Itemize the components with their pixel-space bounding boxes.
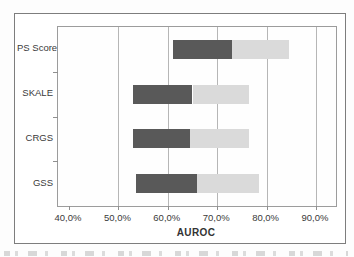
bar-segment-upper-segment [190,129,249,148]
x-tick-label: 40,0% [48,212,88,224]
bar-segment-upper-segment [232,40,289,59]
gridline [118,27,119,206]
x-axis-tick [316,206,317,210]
x-axis-tick [168,206,169,210]
gridline [316,27,317,206]
x-axis-tick [118,206,119,210]
bar-segment-upper-segment [193,85,250,104]
x-tick-label: 50,0% [97,212,137,224]
y-axis-tick [53,161,58,162]
x-tick-label: 80,0% [246,212,286,224]
x-tick-label: 60,0% [147,212,187,224]
plot-area [57,26,337,207]
chart-frame: PS ScoreSKALECRGSGSS 40,0%50,0%60,0%70,0… [14,13,346,244]
bar-segment-lower-segment [136,174,198,193]
x-tick-label: 70,0% [196,212,236,224]
bar-segment-lower-segment [133,129,190,148]
x-tick-label: 90,0% [295,212,335,224]
category-label: CRGS [17,132,53,144]
bar-segment-lower-segment [173,40,232,59]
x-axis-tick [69,206,70,210]
x-axis-tick [217,206,218,210]
cropped-caption-fragment [4,251,348,256]
category-label: PS Score [17,42,53,54]
category-label: GSS [17,177,53,189]
x-axis-title: AUROC [57,227,335,238]
y-axis-tick [53,72,58,73]
bar-segment-lower-segment [133,85,192,104]
bar-segment-upper-segment [197,174,259,193]
y-axis-labels: PS ScoreSKALECRGSGSS [17,26,53,205]
category-label: SKALE [17,87,53,99]
y-axis-tick [53,117,58,118]
x-axis-labels: 40,0%50,0%60,0%70,0%80,0%90,0% [57,212,335,224]
x-axis-tick [267,206,268,210]
